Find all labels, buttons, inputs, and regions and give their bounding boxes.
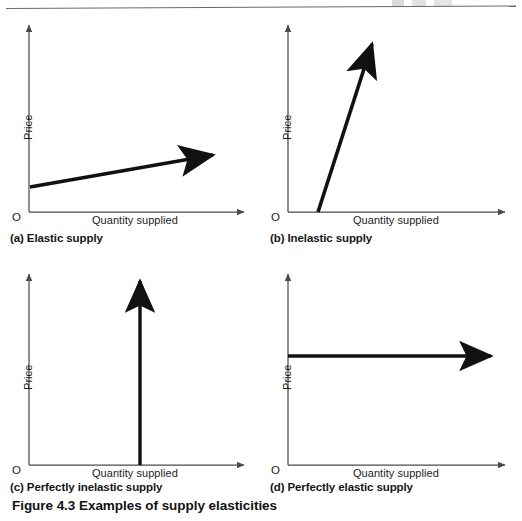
panel-c-y-axis-label: Price [22,365,34,390]
figure-caption: Figure 4.3 Examples of supply elasticiti… [12,498,277,513]
panel-b-caption: (b) Inelastic supply [270,232,372,244]
panel-a-caption: (a) Elastic supply [10,232,103,244]
panel-b-origin-label: O [271,211,280,223]
panel-a-supply-curve [30,155,213,187]
panel-c-caption: (c) Perfectly inelastic supply [10,481,162,493]
panel-b-inelastic-supply: Price Quantity supplied O [261,14,522,224]
figure-supply-elasticities: Price Quantity supplied O (a) Elastic su… [0,0,522,521]
panel-b-x-axis-label: Quantity supplied [353,214,439,226]
panel-d-caption: (d) Perfectly elastic supply [270,481,413,493]
panel-a-origin-label: O [12,211,21,223]
panel-c-x-axis-label: Quantity supplied [92,467,178,479]
panel-d-x-axis-label: Quantity supplied [353,467,439,479]
panel-d-perfectly-elastic-supply: Price Quantity supplied O [261,262,522,474]
panel-a-y-axis-label: Price [22,115,34,140]
panel-b-supply-curve [318,44,372,212]
panel-d-plot [261,262,522,474]
panel-a-plot [0,14,261,224]
panel-b-plot [261,14,522,224]
panel-d-origin-label: O [271,464,280,476]
panel-a-x-axis-label: Quantity supplied [92,214,178,226]
panel-d-y-axis-label: Price [281,365,293,390]
page-header-divider [6,6,516,9]
panel-b-y-axis-label: Price [281,115,293,140]
panel-c-perfectly-inelastic-supply: Price Quantity supplied O [0,262,261,474]
panel-c-plot [0,262,261,474]
panel-c-origin-label: O [12,464,21,476]
panel-a-elastic-supply: Price Quantity supplied O [0,14,261,224]
